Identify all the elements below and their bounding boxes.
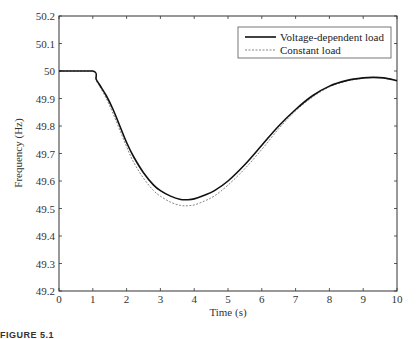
y-tick-label: 49.9	[36, 93, 56, 105]
y-tick-label: 50	[44, 65, 56, 77]
x-tick-label: 1	[90, 293, 96, 305]
x-tick-label: 10	[392, 293, 404, 305]
x-tick-label: 2	[124, 293, 130, 305]
figure-caption: FIGURE 5.1	[0, 330, 54, 339]
x-tick-label: 5	[225, 293, 231, 305]
y-tick-label: 49.7	[36, 148, 56, 160]
y-tick-label: 49.8	[36, 120, 56, 132]
y-tick-label: 49.2	[36, 285, 55, 297]
y-tick-label: 50.1	[36, 38, 55, 50]
x-tick-label: 4	[191, 293, 197, 305]
x-tick-label: 3	[158, 293, 164, 305]
legend: Voltage-dependent load Constant load	[238, 27, 391, 58]
y-tick-label: 50.2	[36, 10, 55, 22]
x-tick-label: 0	[56, 293, 62, 305]
y-tick-label: 49.3	[36, 258, 56, 270]
legend-label-voltage-dependent: Voltage-dependent load	[280, 31, 384, 43]
y-axis-title: Frequency (Hz)	[12, 118, 25, 188]
y-tick-label: 49.6	[36, 175, 56, 187]
y-tick-label: 49.5	[36, 203, 56, 215]
x-tick-label: 6	[259, 293, 265, 305]
frequency-chart: 49.249.349.449.549.649.749.849.95050.150…	[0, 0, 417, 339]
x-tick-label: 9	[360, 293, 366, 305]
x-tick-label: 7	[293, 293, 299, 305]
legend-label-constant: Constant load	[280, 44, 341, 56]
y-tick-label: 49.4	[36, 230, 56, 242]
x-tick-label: 8	[327, 293, 333, 305]
x-axis-title: Time (s)	[209, 306, 247, 319]
